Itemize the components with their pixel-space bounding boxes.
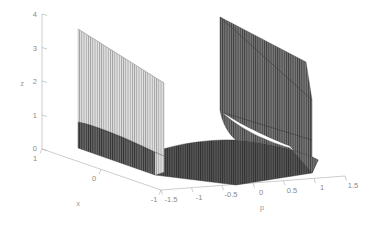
p-tick-15: 1.5 [348,181,358,190]
z-axis-label: z [20,79,24,88]
x-axis-label: x [76,199,80,208]
p-tick-neg1: -1 [196,193,203,202]
p-axis-label: p [260,203,264,212]
p-tick-neg15: -1.5 [165,195,178,204]
p-tick-1: 1 [320,183,324,192]
p-tick-neg05: -0.5 [225,190,238,199]
mesh-surface [78,17,318,185]
z-tick-1: 1 [33,111,37,120]
z-tick-0: 0 [33,144,37,153]
z-tick-4: 4 [33,10,37,19]
z-tick-3: 3 [33,44,37,53]
x-tick-1: 1 [33,154,37,163]
x-tick-0: 0 [92,174,96,183]
surface-plot-figure: 4 3 2 1 0 z 1 0 -1 x [0,0,370,230]
z-axis: 4 3 2 1 0 z [20,10,47,153]
z-tick-2: 2 [33,77,37,86]
p-tick-05: 0.5 [287,186,297,195]
x-tick-neg1: -1 [151,195,158,204]
p-tick-0: 0 [259,188,263,197]
